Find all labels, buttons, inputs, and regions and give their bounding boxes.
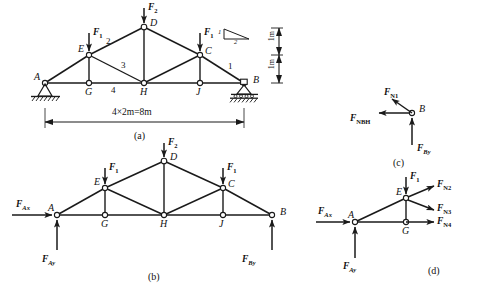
joint-D: [141, 24, 147, 30]
force-label-FBy-c: FBy: [417, 144, 431, 154]
panel-d-caption: (d): [428, 266, 440, 276]
panel-c-caption: (c): [393, 158, 404, 168]
slope-run-label: 2: [234, 39, 237, 46]
node-label-E-a: E: [78, 44, 84, 54]
joint-C: [197, 52, 202, 57]
joint-A-d: [352, 219, 357, 224]
node-label-H-b: H: [160, 219, 167, 229]
node-label-D-a: D: [150, 18, 157, 28]
force-label-FN2-d: FN2: [437, 180, 451, 190]
panel-d-joint: [316, 177, 434, 258]
force-label-FN1-c: FN1: [384, 88, 398, 98]
panel-c-joint: [379, 99, 415, 145]
panel-b-truss: [12, 143, 275, 250]
force-arrow-FN3-d: [408, 200, 434, 210]
slope-rise-label: 1: [218, 29, 221, 36]
member-label-2: 2: [106, 37, 111, 46]
force-arrow-FN2-d: [408, 186, 434, 197]
node-label-E-b: E: [94, 177, 100, 187]
node-label-H-a: H: [140, 87, 147, 97]
joint-D-b: [161, 158, 167, 164]
height-dimension-upper-label: 1m: [268, 31, 276, 41]
force-label-F1-d: F1: [410, 172, 420, 182]
member-label-3: 3: [121, 61, 126, 70]
node-label-D-b: D: [170, 152, 177, 162]
joint-B-b: [269, 212, 274, 217]
joint-C-b: [220, 185, 225, 190]
force-label-FAx-d: FAx: [318, 207, 332, 217]
joint-H-b: [161, 212, 166, 217]
node-label-G-a: G: [85, 87, 92, 97]
node-label-J-a: J: [196, 87, 200, 97]
height-dimension-lower-label: 1m: [268, 59, 276, 69]
joint-E-d: [403, 195, 408, 200]
member-label-1: 1: [228, 62, 233, 71]
joint-A-b: [54, 212, 59, 217]
node-label-G-d: G: [402, 226, 409, 236]
node-label-G-b: G: [101, 219, 108, 229]
load-label-F1-right-b: F1: [227, 163, 237, 173]
load-label-F1-left-b: F1: [109, 163, 119, 173]
joint-G: [86, 80, 91, 85]
pin-support-A: [31, 84, 60, 101]
member-label-4: 4: [111, 86, 116, 95]
node-label-J-b: J: [219, 219, 223, 229]
force-label-FBy-b: FBy: [242, 255, 256, 265]
node-label-C-a: C: [205, 46, 212, 56]
force-label-FNBH-c: FNBH: [350, 114, 370, 124]
joint-G-b: [102, 212, 107, 217]
joint-E-b: [102, 185, 107, 190]
node-label-A-b: A: [48, 203, 54, 213]
node-label-C-b: C: [228, 179, 235, 189]
joint-J-b: [220, 212, 225, 217]
node-label-A-d: A: [348, 210, 354, 220]
joint-H: [141, 80, 146, 85]
node-label-B-b: B: [280, 207, 286, 217]
force-label-FAy-d: FAy: [343, 262, 356, 272]
span-dimension-label: 4×2m=8m: [112, 108, 152, 118]
node-label-B-c: B: [419, 104, 425, 114]
load-label-F1-right-a: F1: [204, 28, 214, 38]
panel-b-caption: (b): [148, 272, 160, 282]
joint-J: [197, 80, 202, 85]
node-label-B-a: B: [253, 75, 259, 85]
load-label-F2-b: F2: [168, 138, 178, 148]
figure-root: A E D C B G H J 1 2 3 4 F1 F2 F1 1 2 4×2…: [0, 0, 477, 297]
figure-canvas: [0, 0, 477, 297]
panel-a-caption: (a): [134, 131, 145, 141]
force-label-FAx-b: FAx: [16, 200, 30, 210]
force-label-FN3-d: FN3: [437, 204, 451, 214]
force-label-FN4-d: FN4: [437, 217, 451, 227]
load-label-F2-a: F2: [148, 3, 158, 13]
load-label-F1-left-a: F1: [93, 28, 103, 38]
node-label-A-a: A: [34, 72, 40, 82]
force-arrow-FN1-c: [392, 99, 412, 113]
force-label-FAy-b: FAy: [42, 255, 55, 265]
node-label-E-d: E: [396, 187, 402, 197]
joint-E: [86, 52, 91, 57]
